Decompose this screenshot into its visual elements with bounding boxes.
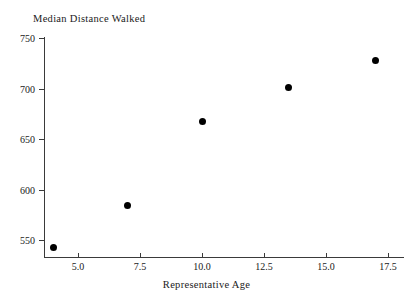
x-tick-mark <box>202 253 203 258</box>
chart-title: Median Distance Walked <box>33 13 145 24</box>
y-axis-line <box>44 37 45 258</box>
y-tick-mark <box>39 139 44 140</box>
x-axis-title: Representative Age <box>0 279 413 290</box>
x-tick-label: 17.5 <box>379 261 397 272</box>
x-tick-label: 12.5 <box>255 261 273 272</box>
data-point[interactable] <box>124 202 131 209</box>
x-tick-label: 15.0 <box>317 261 335 272</box>
scatter-chart-figure: Median Distance Walked 550600650700750 5… <box>0 0 413 302</box>
y-tick-mark <box>39 190 44 191</box>
data-point[interactable] <box>372 57 379 64</box>
data-point[interactable] <box>199 118 206 125</box>
x-tick-label: 10.0 <box>193 261 211 272</box>
x-tick-mark <box>78 253 79 258</box>
x-tick-mark <box>326 253 327 258</box>
x-axis-line <box>44 257 404 258</box>
data-point[interactable] <box>285 84 292 91</box>
y-tick-label: 600 <box>20 184 35 195</box>
x-tick-mark <box>264 253 265 258</box>
data-point[interactable] <box>50 244 57 251</box>
x-tick-label: 5.0 <box>72 261 85 272</box>
y-tick-mark <box>39 240 44 241</box>
y-tick-mark <box>39 89 44 90</box>
y-tick-label: 750 <box>20 33 35 44</box>
x-tick-label: 7.5 <box>134 261 147 272</box>
y-tick-label: 650 <box>20 134 35 145</box>
y-tick-mark <box>39 38 44 39</box>
x-tick-mark <box>388 253 389 258</box>
y-tick-label: 700 <box>20 83 35 94</box>
y-tick-label: 550 <box>20 235 35 246</box>
x-tick-mark <box>140 253 141 258</box>
